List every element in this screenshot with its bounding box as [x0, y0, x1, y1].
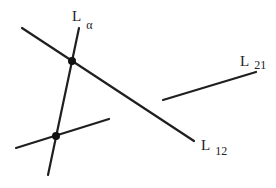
- line-l-alpha: [48, 28, 79, 175]
- label-l21: L 21: [240, 52, 266, 72]
- label-l-alpha: L α: [72, 7, 93, 32]
- label-l-alpha-main: L: [72, 8, 81, 24]
- lower-intersection-point: [52, 132, 60, 140]
- label-l12-sub: 12: [215, 144, 227, 158]
- line-diagram: L α L 12 L 21: [0, 0, 276, 188]
- upper-intersection-point: [68, 57, 76, 65]
- line-l12: [22, 28, 194, 141]
- label-l21-sub: 21: [254, 58, 266, 72]
- label-l12-main: L: [201, 137, 210, 153]
- line-short: [16, 119, 109, 148]
- label-l-alpha-sub: α: [86, 18, 93, 32]
- label-l12: L 12: [201, 136, 227, 158]
- label-l21-main: L: [240, 53, 249, 69]
- line-l21: [163, 72, 256, 100]
